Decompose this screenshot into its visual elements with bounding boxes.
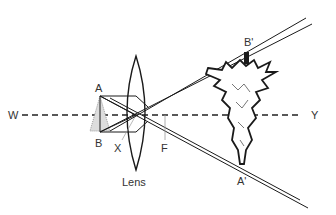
object-tree — [90, 96, 110, 132]
label-lens: Lens — [122, 176, 146, 188]
label-f: F — [161, 142, 168, 154]
lens-ray-diagram: W Y A B X F B' A' Lens — [0, 0, 336, 215]
label-b-prime: B' — [244, 36, 253, 48]
label-a: A — [95, 82, 103, 94]
label-b: B — [95, 137, 102, 149]
label-x: X — [114, 142, 122, 154]
image-tree — [206, 52, 276, 164]
convex-lens — [127, 56, 145, 170]
label-w: W — [8, 109, 19, 121]
label-y: Y — [311, 109, 319, 121]
label-a-prime: A' — [237, 175, 246, 187]
